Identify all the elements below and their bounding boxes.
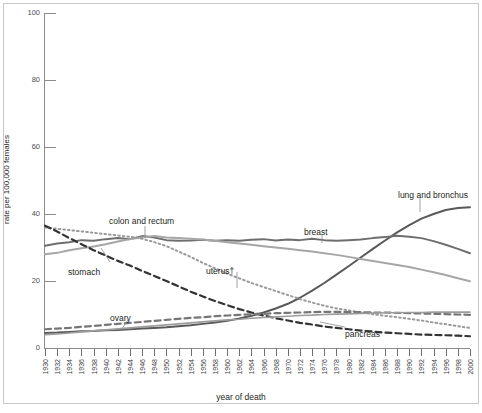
series-layer [0,0,482,413]
series-label-uterus-: uterus† [206,266,234,276]
series-label-stomach: stomach [68,267,100,277]
series-label-colon-and-rectum: colon and rectum [109,216,174,226]
series-line-ovary [45,312,470,329]
series-line-colon-and-rectum [45,236,470,281]
series-line-stomach [45,226,470,337]
series-label-breast: breast [304,227,328,237]
annotation-leader-line [320,322,345,327]
series-line-pancreas [45,312,470,334]
figure-container: rate per 100,000 females year of death 0… [0,0,482,413]
series-label-ovary: ovary [110,313,131,323]
series-label-pancreas: pancreas [345,329,380,339]
series-label-lung-and-bronchus: lung and bronchus [398,190,468,200]
